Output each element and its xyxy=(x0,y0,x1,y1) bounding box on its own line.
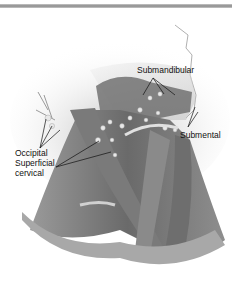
label-submandibular: Submandibular xyxy=(137,66,194,75)
label-occipital: Occipital xyxy=(15,149,48,158)
label-submental: Submental xyxy=(180,131,221,140)
label-superficial-cervical-line1: Superficial xyxy=(15,159,55,168)
neck-lymph-nodes-illustration xyxy=(0,0,232,286)
label-superficial-cervical-line2: cervical xyxy=(15,169,44,178)
